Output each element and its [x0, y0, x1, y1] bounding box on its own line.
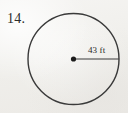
center-point-dot	[71, 56, 76, 61]
circle-figure	[0, 0, 128, 113]
worksheet-figure-page: 14. 43 ft	[0, 0, 128, 113]
radius-measurement-label: 43 ft	[88, 45, 105, 55]
